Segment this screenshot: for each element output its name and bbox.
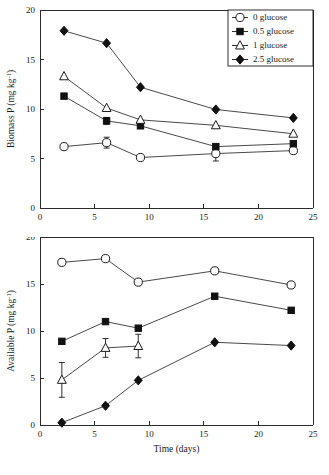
y-tick-label-15: 15	[26, 55, 36, 65]
legend-marker-1-filled-square-marker[interactable]	[237, 28, 243, 34]
data-point-1-4-filled-square-marker[interactable]	[290, 140, 296, 146]
series-biomass-p-0	[60, 137, 298, 161]
x-tick-label-20: 20	[254, 429, 264, 439]
legend-item-1-glucose[interactable]: 1 glucose	[232, 40, 287, 50]
legend-item-0-glucose[interactable]: 0 glucose	[232, 12, 287, 22]
x-tick-label-25: 25	[309, 429, 319, 439]
data-point-2-0-open-triangle-marker[interactable]	[57, 375, 66, 383]
data-point-3-0-filled-diamond-marker[interactable]	[58, 418, 66, 427]
series-available-p-3	[58, 338, 295, 428]
x-tick-label-15: 15	[199, 212, 209, 222]
y-axis-title-tail: )	[6, 70, 17, 73]
y-tick-label-0: 0	[31, 420, 36, 430]
data-point-2-3-open-triangle-marker[interactable]	[211, 121, 220, 129]
data-point-2-1-open-triangle-marker[interactable]	[102, 103, 111, 111]
legend-label-3: 2.5 glucose	[253, 54, 294, 64]
figure-container: 051015200510152025Biomass P (mg kg-1)0 g…	[0, 0, 329, 475]
data-point-0-0-open-circle-marker[interactable]	[60, 143, 68, 151]
x-tick-label-25: 25	[309, 212, 319, 222]
data-point-3-3-filled-diamond-marker[interactable]	[212, 105, 220, 114]
legend-label-1: 0.5 glucose	[253, 26, 294, 36]
y-axis-title: Available P (mg kg-1)	[5, 290, 17, 372]
series-line-1	[62, 296, 291, 341]
y-tick-label-5: 5	[31, 373, 36, 383]
data-point-2-2-open-triangle-marker[interactable]	[134, 341, 143, 349]
data-point-3-1-filled-diamond-marker[interactable]	[102, 401, 110, 410]
x-tick-label-5: 5	[92, 212, 97, 222]
legend-marker-0-open-circle-marker[interactable]	[236, 13, 244, 21]
y-tick-label-0: 0	[31, 203, 36, 213]
x-tick-label-10: 10	[145, 429, 155, 439]
axis-frame	[40, 237, 313, 425]
x-tick-label-15: 15	[199, 429, 209, 439]
data-point-2-0-open-triangle-marker[interactable]	[60, 72, 69, 80]
y-tick-label-20: 20	[26, 237, 36, 242]
series-available-p-1	[59, 293, 295, 345]
data-point-1-0-filled-square-marker[interactable]	[59, 338, 65, 344]
x-tick-label-20: 20	[254, 212, 264, 222]
y-axis-title-tail: )	[6, 290, 17, 293]
data-point-3-3-filled-diamond-marker[interactable]	[211, 338, 219, 347]
series-biomass-p-1	[61, 93, 297, 150]
data-point-0-1-open-circle-marker[interactable]	[101, 255, 109, 263]
data-point-3-0-filled-diamond-marker[interactable]	[60, 26, 68, 35]
y-tick-label-10: 10	[26, 104, 36, 114]
x-tick-label-0: 0	[38, 212, 43, 222]
data-point-0-2-open-circle-marker[interactable]	[134, 278, 142, 286]
data-point-0-4-open-circle-marker[interactable]	[287, 281, 295, 289]
y-tick-label-15: 15	[26, 279, 36, 289]
data-point-2-1-open-triangle-marker[interactable]	[101, 343, 110, 351]
series-line-2	[64, 76, 293, 133]
series-line-2	[62, 346, 138, 380]
data-point-3-2-filled-diamond-marker[interactable]	[134, 376, 142, 385]
data-point-1-2-filled-square-marker[interactable]	[135, 325, 141, 331]
series-biomass-p-2	[60, 72, 298, 138]
series-line-0	[62, 259, 291, 285]
chart-panel-biomass-p: 051015200510152025Biomass P (mg kg-1)0 g…	[0, 0, 329, 237]
data-point-3-4-filled-diamond-marker[interactable]	[289, 113, 297, 122]
data-point-0-4-open-circle-marker[interactable]	[289, 146, 297, 154]
data-point-3-4-filled-diamond-marker[interactable]	[287, 341, 295, 350]
y-axis-title: Biomass P (mg kg-1)	[5, 70, 17, 148]
x-axis-title: Time (days)	[154, 444, 200, 455]
data-point-1-0-filled-square-marker[interactable]	[61, 93, 67, 99]
y-tick-label-20: 20	[26, 5, 36, 15]
chart-legend: 0 glucose0.5 glucose1 glucose2.5 glucose	[228, 10, 313, 66]
chart-panel-available-p: 051015200510152025Available P (mg kg-1)T…	[0, 237, 329, 475]
series-line-1	[64, 96, 293, 146]
series-available-p-2	[57, 334, 142, 397]
y-tick-label-10: 10	[26, 326, 36, 336]
x-tick-label-0: 0	[38, 429, 43, 439]
data-point-0-1-open-circle-marker[interactable]	[103, 139, 111, 147]
series-available-p-0	[58, 255, 296, 290]
data-point-0-3-open-circle-marker[interactable]	[211, 267, 219, 275]
data-point-1-1-filled-square-marker[interactable]	[102, 318, 108, 324]
legend-label-0: 0 glucose	[253, 12, 287, 22]
data-point-1-4-filled-square-marker[interactable]	[288, 307, 294, 313]
data-point-1-3-filled-square-marker[interactable]	[212, 293, 218, 299]
x-tick-label-10: 10	[145, 212, 155, 222]
data-point-0-3-open-circle-marker[interactable]	[212, 149, 220, 157]
data-point-0-2-open-circle-marker[interactable]	[136, 153, 144, 161]
data-point-0-0-open-circle-marker[interactable]	[58, 258, 66, 266]
data-point-1-3-filled-square-marker[interactable]	[213, 143, 219, 149]
legend-label-2: 1 glucose	[253, 40, 287, 50]
x-tick-label-5: 5	[92, 429, 97, 439]
data-point-1-1-filled-square-marker[interactable]	[103, 118, 109, 124]
y-tick-label-5: 5	[31, 154, 36, 164]
